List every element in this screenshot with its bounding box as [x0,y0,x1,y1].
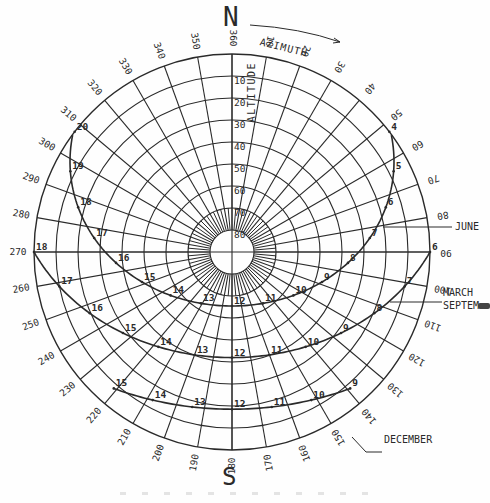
hour-label: 15 [144,271,156,282]
azimuth-tick-label: 230 [57,379,77,399]
hour-marker [231,408,234,411]
hour-label: 13 [194,396,206,407]
azimuth-tick-label: 280 [12,207,31,221]
hour-label: 5 [396,160,402,171]
azimuth-tick-label: 240 [36,349,57,367]
azimuth-spoke [251,153,403,241]
hour-marker [169,294,172,297]
september-callout: SEPTEM [443,300,479,311]
december-callout: DECEMBER [384,434,432,445]
azimuth-tick-label: 290 [21,170,41,186]
hour-marker [73,130,76,133]
hour-marker [347,262,350,265]
hour-label: 9 [343,322,349,333]
hour-label: 15 [116,377,128,388]
hour-label: 14 [173,284,185,295]
hour-label: 18 [80,196,92,207]
azimuth-tick-label: 70 [426,173,441,187]
altitude-ring-label: 20 [234,97,246,108]
hour-marker [369,237,372,240]
azimuth-tick-label: 360 [228,29,239,46]
altitude-ring-label: 60 [234,185,246,196]
hour-label: 6 [388,196,394,207]
hour-marker [58,285,61,288]
azimuth-subspoke [248,221,264,237]
azimuth-subspoke [248,268,264,284]
azimuth-tick-label: 80 [436,209,449,222]
hour-label: 7 [372,227,378,238]
altitude-ring-label: 40 [234,141,246,152]
hour-marker [231,305,234,308]
hour-marker [157,346,160,349]
hour-marker [115,262,118,265]
hour-marker [69,170,72,173]
hour-label: 18 [36,241,48,252]
azimuth-subspoke [188,254,210,256]
hour-label: 12 [234,347,245,358]
hour-label: 19 [72,160,84,171]
march-callout: MARCH [443,287,473,298]
hour-label: 13 [197,344,209,355]
azimuth-tick-label: 330 [117,56,135,77]
hour-marker [349,387,352,390]
azimuth-tick-label: 320 [85,77,105,97]
hour-label: 10 [313,389,325,400]
hour-label: 11 [274,396,286,407]
leader-line [352,437,366,452]
azimuth-subspoke [201,268,217,284]
azimuth-tick-label: 90 [440,248,452,259]
hour-label: 13 [203,292,215,303]
hour-marker [122,332,125,335]
hour-label: 10 [295,284,307,295]
altitude-ring-label: 80 [234,229,246,240]
azimuth-tick-label: 260 [12,281,31,295]
scan-artifact [478,303,490,309]
altitude-ring-label: 50 [234,163,246,174]
azimuth-tick-label: 140 [359,406,379,426]
azimuth-tick-label: 160 [296,443,312,463]
hour-marker [268,354,271,357]
hour-marker [88,312,91,315]
hour-label: 8 [376,302,382,313]
hour-marker [262,302,265,305]
hour-label: 7 [407,275,413,286]
hour-marker [403,285,406,288]
azimuth-spoke [254,256,427,287]
hour-label: 4 [391,121,397,132]
azimuth-tick-label: 130 [385,380,405,400]
hour-marker [429,251,432,254]
polar-grid [34,54,430,450]
hour-label: 6 [432,241,438,252]
hour-marker [373,312,376,315]
azimuth-subspoke [228,274,230,296]
altitude-ring-labels: 1020304050607080 [234,75,246,240]
hour-label: 10 [308,336,320,347]
azimuth-tick-label: 190 [187,453,201,472]
azimuth-spoke [37,218,210,249]
hour-label: 9 [352,377,358,388]
azimuth-tick-label: 30 [332,59,347,75]
altitude-ring-label: 70 [234,207,246,218]
hour-label: 12 [234,295,245,306]
azimuth-tick-label: 150 [329,427,347,448]
azimuth-tick-label: 270 [9,246,26,257]
azimuth-subspoke [254,254,276,256]
hour-marker [231,356,234,359]
hour-marker [310,399,313,402]
hour-marker [112,387,115,390]
azimuth-subspoke [234,274,236,296]
azimuth-tick-label: 110 [423,318,443,334]
hour-marker [93,237,96,240]
hour-label: 16 [92,302,104,313]
hour-marker [340,332,343,335]
hour-marker [33,251,36,254]
azimuth-tick-label: 300 [37,135,58,153]
hour-marker [392,170,395,173]
azimuth-tick-label: 250 [21,316,41,332]
azimuth-tick-label: 170 [261,453,275,472]
azimuth-subspoke [228,208,230,230]
hour-label: 17 [96,227,107,238]
hour-marker [151,399,154,402]
north-label: N [223,2,239,32]
hour-label: 16 [118,252,130,263]
